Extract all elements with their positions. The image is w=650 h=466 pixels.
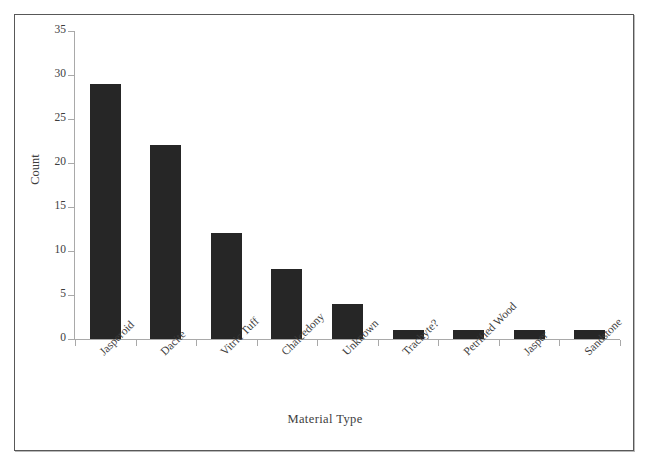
x-tick-mark	[196, 340, 197, 346]
figure-canvas: 05101520253035 JasperoidDaciteVitric Tuf…	[0, 0, 650, 466]
bar	[211, 233, 242, 339]
y-tick-mark	[68, 339, 75, 340]
plot-area	[75, 31, 620, 339]
y-tick-label: 5	[44, 287, 66, 299]
y-tick-label: 35	[44, 23, 66, 35]
x-tick-mark	[75, 340, 76, 346]
x-tick-mark	[438, 340, 439, 346]
x-tick-mark	[559, 340, 560, 346]
y-tick-label: 0	[44, 331, 66, 343]
x-tick-mark	[257, 340, 258, 346]
bar	[90, 84, 121, 339]
x-tick-mark	[136, 340, 137, 346]
y-tick-mark	[68, 251, 75, 252]
x-tick-mark	[499, 340, 500, 346]
y-tick-label: 25	[44, 111, 66, 123]
y-tick-mark	[68, 295, 75, 296]
y-tick-label: 30	[44, 67, 66, 79]
y-axis-title: Count	[28, 154, 43, 185]
y-tick-label: 15	[44, 199, 66, 211]
y-tick-label: 10	[44, 243, 66, 255]
x-tick-mark	[620, 340, 621, 346]
x-tick-mark	[378, 340, 379, 346]
y-tick-mark	[68, 31, 75, 32]
bar	[150, 145, 181, 339]
y-tick-mark	[68, 207, 75, 208]
y-tick-mark	[68, 163, 75, 164]
y-tick-mark	[68, 119, 75, 120]
y-tick-label: 20	[44, 155, 66, 167]
x-tick-mark	[317, 340, 318, 346]
y-tick-mark	[68, 75, 75, 76]
x-axis-title: Material Type	[0, 412, 650, 427]
